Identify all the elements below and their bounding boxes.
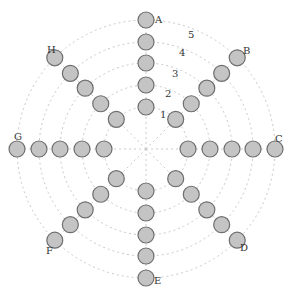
node-G-3 xyxy=(52,141,68,157)
node-C-1 xyxy=(180,141,196,157)
node-H-4 xyxy=(62,65,78,81)
node-F-3 xyxy=(77,202,93,218)
node-B-2 xyxy=(183,96,199,112)
node-E-5 xyxy=(138,270,154,286)
node-A-4 xyxy=(138,34,154,50)
node-F-1 xyxy=(108,171,124,187)
spoke-label-F: F xyxy=(46,245,53,256)
node-C-2 xyxy=(202,141,218,157)
node-B-1 xyxy=(168,111,184,127)
node-D-2 xyxy=(183,186,199,202)
node-G-1 xyxy=(96,141,112,157)
ring-number-label: 4 xyxy=(179,47,185,58)
node-B-4 xyxy=(214,65,230,81)
ring-number-label: 3 xyxy=(172,68,178,79)
node-G-2 xyxy=(74,141,90,157)
node-D-3 xyxy=(199,202,215,218)
node-F-2 xyxy=(93,186,109,202)
node-A-1 xyxy=(138,99,154,115)
node-A-3 xyxy=(138,55,154,71)
node-D-4 xyxy=(214,217,230,233)
node-H-3 xyxy=(77,80,93,96)
node-A-5 xyxy=(138,12,154,28)
spoke-label-A: A xyxy=(154,14,163,25)
spoke-label-G: G xyxy=(14,131,22,142)
spoke-label-D: D xyxy=(240,242,248,253)
node-B-3 xyxy=(199,80,215,96)
spoke-label-C: C xyxy=(275,133,283,144)
spoke-label-E: E xyxy=(154,275,161,286)
node-A-2 xyxy=(138,77,154,93)
node-G-4 xyxy=(31,141,47,157)
node-H-2 xyxy=(93,96,109,112)
node-G-5 xyxy=(9,141,25,157)
ring-number-label: 2 xyxy=(165,88,171,99)
spoke-label-H: H xyxy=(47,44,56,55)
node-C-3 xyxy=(224,141,240,157)
node-F-4 xyxy=(62,217,78,233)
node-C-4 xyxy=(245,141,261,157)
spoke-label-B: B xyxy=(243,45,250,56)
node-D-1 xyxy=(168,171,184,187)
node-E-1 xyxy=(138,183,154,199)
ring-number-label: 1 xyxy=(160,109,166,120)
concentric-ring-diagram: ABCDEFGH 12345 xyxy=(0,0,292,298)
node-H-1 xyxy=(108,111,124,127)
node-E-3 xyxy=(138,227,154,243)
node-E-4 xyxy=(138,248,154,264)
ring-number-label: 5 xyxy=(188,29,194,40)
node-E-2 xyxy=(138,205,154,221)
